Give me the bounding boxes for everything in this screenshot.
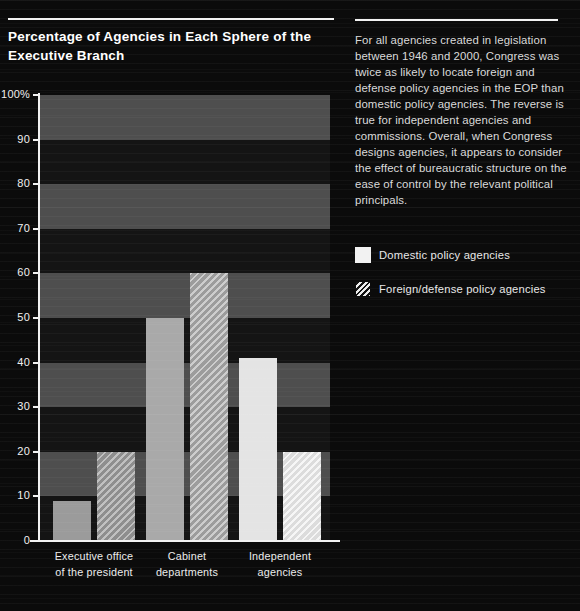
solid-swatch-icon — [355, 247, 371, 263]
bar-domestic-independent — [239, 358, 277, 541]
grid-band-40-30 — [40, 363, 330, 408]
x-category-label-line: Independent — [214, 549, 346, 565]
y-tick-label-0: 0 — [0, 534, 30, 546]
chart-plot-area — [40, 95, 330, 541]
y-tick-20 — [33, 451, 39, 453]
grid-band-100-90 — [40, 95, 330, 140]
y-tick-80 — [33, 183, 39, 185]
legend-label-domestic: Domestic policy agencies — [379, 249, 510, 261]
grid-band-90-80 — [40, 140, 330, 185]
y-tick-100 — [33, 94, 39, 96]
y-tick-label-40: 40 — [0, 356, 30, 368]
grid-band-50-40 — [40, 318, 330, 363]
bar-domestic-executive-office — [53, 501, 91, 541]
y-tick-label-60: 60 — [0, 266, 30, 278]
y-tick-60 — [33, 272, 39, 274]
y-tick-10 — [33, 495, 39, 497]
bar-domestic-cabinet — [146, 318, 184, 541]
chart-legend: Domestic policy agencies Foreign/defense… — [355, 247, 546, 315]
y-tick-label-30: 30 — [0, 400, 30, 412]
bar-foreign-independent — [283, 452, 321, 541]
y-tick-40 — [33, 362, 39, 364]
x-axis-line — [30, 540, 340, 542]
title-rule — [8, 18, 334, 20]
bar-foreign-cabinet — [190, 273, 228, 541]
x-category-label-independent: Independentagencies — [214, 549, 346, 580]
y-tick-label-50: 50 — [0, 311, 30, 323]
legend-item-foreign: Foreign/defense policy agencies — [355, 281, 546, 297]
sidebar-rule — [355, 19, 558, 21]
grid-band-30-20 — [40, 407, 330, 452]
y-tick-label-100: 100% — [0, 88, 30, 100]
y-tick-label-10: 10 — [0, 489, 30, 501]
y-tick-label-70: 70 — [0, 222, 30, 234]
grid-band-80-70 — [40, 184, 330, 229]
bar-foreign-executive-office — [97, 452, 135, 541]
figure-page: Percentage of Agencies in Each Sphere of… — [0, 0, 580, 611]
y-tick-0 — [33, 540, 39, 542]
legend-item-domestic: Domestic policy agencies — [355, 247, 546, 263]
legend-label-foreign: Foreign/defense policy agencies — [379, 283, 546, 295]
y-tick-50 — [33, 317, 39, 319]
grid-band-60-50 — [40, 273, 330, 318]
y-tick-label-90: 90 — [0, 133, 30, 145]
y-tick-70 — [33, 228, 39, 230]
y-tick-label-20: 20 — [0, 445, 30, 457]
hatch-swatch-icon — [355, 281, 371, 297]
page-title: Percentage of Agencies in Each Sphere of… — [8, 27, 340, 65]
grid-band-70-60 — [40, 229, 330, 274]
sidebar-paragraph: For all agencies created in legislation … — [355, 33, 571, 209]
y-tick-label-80: 80 — [0, 177, 30, 189]
y-tick-30 — [33, 406, 39, 408]
y-tick-90 — [33, 139, 39, 141]
x-category-label-line: agencies — [214, 565, 346, 581]
